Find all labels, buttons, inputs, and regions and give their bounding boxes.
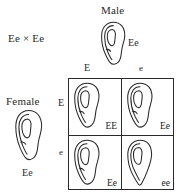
- row-gamete-label-2: e: [59, 148, 63, 157]
- punnett-genotype-top-left: EE: [105, 122, 117, 132]
- punnett-grid: EE Ee: [68, 78, 174, 190]
- female-genotype-label: Ee: [22, 168, 33, 178]
- punnett-cell-bottom-left: Ee: [69, 136, 121, 192]
- parental-cross-label: Ee × Ee: [8, 33, 44, 44]
- column-gamete-label-2: e: [139, 64, 143, 73]
- row-gamete-label-1: E: [58, 98, 64, 108]
- column-gamete-label-1: E: [84, 63, 90, 73]
- male-genotype-label: Ee: [128, 38, 139, 48]
- punnett-square-diagram: Ee × Ee Male Ee Female Ee E e E e: [0, 0, 179, 196]
- punnett-cell-top-right: Ee: [122, 79, 174, 135]
- punnett-genotype-top-right: Ee: [160, 122, 170, 132]
- punnett-genotype-bottom-right: ee: [162, 179, 170, 189]
- punnett-cell-bottom-right: ee: [122, 136, 174, 192]
- ear-attached-lobe-icon: [125, 138, 155, 188]
- male-parent-label: Male: [101, 5, 124, 16]
- ear-free-lobe-icon: [125, 81, 155, 131]
- ear-free-lobe-icon: [99, 20, 127, 66]
- female-parent-label: Female: [6, 96, 40, 107]
- ear-free-lobe-icon: [72, 81, 102, 131]
- ear-free-lobe-icon: [72, 138, 102, 188]
- ear-free-lobe-icon: [13, 108, 44, 166]
- punnett-cell-top-left: EE: [69, 79, 121, 135]
- punnett-genotype-bottom-left: Ee: [107, 179, 117, 189]
